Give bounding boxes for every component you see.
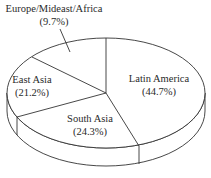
label-europe-pct: (9.7%) [6,15,103,28]
pie-chart: Europe/Mideast/Africa (9.7%) East Asia (… [0,0,211,178]
label-latin-america-name: Latin America [129,72,189,85]
label-east-asia-name: East Asia [12,73,51,86]
label-east-asia: East Asia (21.2%) [12,73,51,99]
label-europe: Europe/Mideast/Africa (9.7%) [6,2,103,28]
label-south-asia-pct: (24.3%) [67,125,113,138]
label-europe-name: Europe/Mideast/Africa [6,2,103,15]
label-east-asia-pct: (21.2%) [12,86,51,99]
label-latin-america-pct: (44.7%) [129,85,189,98]
label-latin-america: Latin America (44.7%) [129,72,189,98]
label-south-asia-name: South Asia [67,112,113,125]
label-south-asia: South Asia (24.3%) [67,112,113,138]
